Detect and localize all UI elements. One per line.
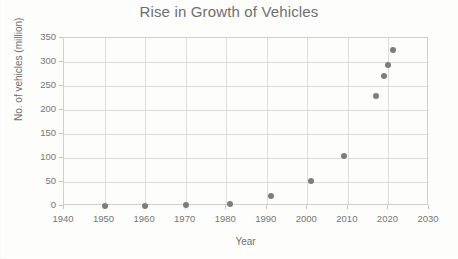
x-axis-tick-mark: [63, 205, 64, 209]
x-axis-tick-label: 2030: [408, 213, 448, 224]
y-axis-tick-label: 350: [40, 31, 56, 42]
gridline-vertical: [105, 38, 106, 204]
x-axis-tick-label: 1950: [84, 213, 124, 224]
x-axis-tick-mark: [428, 205, 429, 209]
y-axis-tick-label: 300: [40, 55, 56, 66]
y-axis-tick-label: 100: [40, 151, 56, 162]
data-point: [373, 93, 379, 99]
data-point: [268, 193, 274, 199]
x-axis-tick-mark: [306, 205, 307, 209]
data-point: [381, 73, 387, 79]
gridline-vertical: [267, 38, 268, 204]
plot-area: [63, 37, 428, 205]
chart-title: Rise in Growth of Vehicles: [0, 3, 458, 20]
x-axis-tick-mark: [225, 205, 226, 209]
y-axis-tick-label: 200: [40, 103, 56, 114]
x-axis-tick-mark: [266, 205, 267, 209]
x-axis-tick-label: 2000: [286, 213, 326, 224]
gridline-horizontal: [64, 182, 427, 183]
gridline-horizontal: [64, 86, 427, 87]
y-axis-label: No. of vehicles (million): [13, 18, 24, 121]
data-point: [390, 47, 396, 53]
x-axis-tick-label: 1990: [246, 213, 286, 224]
x-axis-tick-label: 1960: [124, 213, 164, 224]
data-point: [341, 153, 347, 159]
y-axis-tick-label: 50: [45, 175, 56, 186]
gridline-horizontal: [64, 62, 427, 63]
data-point: [142, 203, 148, 209]
gridline-vertical: [348, 38, 349, 204]
x-axis-label: Year: [63, 236, 428, 247]
x-axis-tick-label: 1980: [205, 213, 245, 224]
x-axis-tick-label: 1970: [165, 213, 205, 224]
x-axis-tick-label: 1940: [43, 213, 83, 224]
x-axis-tick-mark: [387, 205, 388, 209]
chart-page: Rise in Growth of Vehicles No. of vehicl…: [0, 0, 458, 259]
gridline-horizontal: [64, 110, 427, 111]
gridline-horizontal: [64, 134, 427, 135]
y-axis-tick-label: 150: [40, 127, 56, 138]
data-point: [183, 202, 189, 208]
gridline-vertical: [226, 38, 227, 204]
data-point: [227, 201, 233, 207]
x-axis-tick-mark: [347, 205, 348, 209]
x-axis-tick-label: 2020: [367, 213, 407, 224]
gridline-vertical: [186, 38, 187, 204]
data-point: [308, 178, 314, 184]
data-point: [102, 203, 108, 209]
x-axis-tick-label: 2010: [327, 213, 367, 224]
y-axis-tick-label: 0: [51, 199, 56, 210]
data-point: [385, 62, 391, 68]
gridline-vertical: [145, 38, 146, 204]
y-axis-tick-label: 250: [40, 79, 56, 90]
gridline-horizontal: [64, 158, 427, 159]
